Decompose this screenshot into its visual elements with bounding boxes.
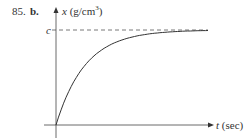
- data-curve: [56, 31, 208, 126]
- x-axis-arrow-icon: [208, 123, 214, 128]
- chart-plot: [0, 0, 247, 140]
- y-axis-arrow-icon: [54, 7, 59, 13]
